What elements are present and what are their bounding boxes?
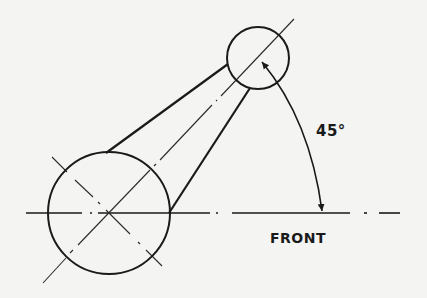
diagram-canvas: 45° FRONT — [0, 0, 427, 298]
link-centerline — [43, 19, 294, 283]
link-upper-edge — [106, 64, 228, 153]
link-lower-edge — [169, 88, 250, 213]
small-circle — [227, 27, 289, 89]
angle-label: 45° — [316, 122, 346, 140]
large-circle-cross-centerline — [52, 157, 162, 266]
front-label: FRONT — [270, 230, 326, 246]
drawing-svg — [0, 0, 427, 298]
angle-dimension-arc — [262, 62, 322, 211]
